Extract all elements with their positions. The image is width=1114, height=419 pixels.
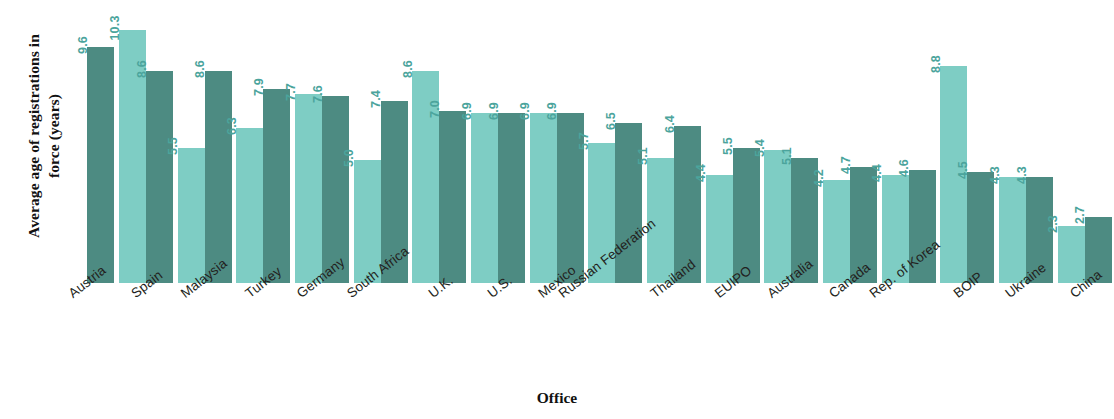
bar-value-label: 2.7	[1084, 206, 1098, 224]
bar-value-label: 9.6	[87, 36, 101, 54]
bar-light: 5.5	[178, 148, 205, 283]
bar-value-label: 5.0	[353, 149, 367, 167]
bar-light: 6.9	[530, 113, 557, 283]
bar-value-label: 8.6	[204, 60, 218, 78]
bar-value-label: 6.9	[471, 102, 485, 120]
bar-value-label: 4.4	[705, 164, 719, 182]
bar-light: 4.3	[999, 177, 1026, 283]
bar-dark: 7.9	[263, 89, 290, 283]
bar-groups: 9.610.38.65.58.66.37.97.77.65.07.48.67.0…	[58, 0, 1114, 283]
x-tick: Mexico	[527, 283, 586, 383]
bar-value-label: 4.3	[999, 166, 1013, 184]
bar-value-label: 6.9	[529, 102, 543, 120]
x-tick: Austria	[58, 283, 117, 383]
bar-value-label: 5.7	[588, 132, 602, 150]
bar-group: 2.32.7	[1055, 0, 1114, 283]
x-tick: U.S.	[469, 283, 528, 383]
bar-group: 5.16.4	[645, 0, 704, 283]
bar-dark: 5.5	[733, 148, 760, 283]
x-tick: Russian Federation	[586, 283, 645, 383]
x-tick: Germany	[293, 283, 352, 383]
bar-dark: 8.6	[146, 71, 173, 283]
bar-value-label: 6.4	[674, 115, 688, 133]
bar-dark: 6.9	[498, 113, 525, 283]
bar-group: 4.34.3	[997, 0, 1056, 283]
bar-value-label: 7.7	[295, 83, 309, 101]
bar-value-label: 4.3	[1026, 166, 1040, 184]
bar-value-label: 6.9	[556, 102, 570, 120]
bar-group: 7.77.6	[293, 0, 352, 283]
x-tick: Thailand	[645, 283, 704, 383]
bar-group: 6.37.9	[234, 0, 293, 283]
bar-dark: 8.6	[205, 71, 232, 283]
bar-value-label: 7.6	[322, 85, 336, 103]
x-tick: Ukraine	[997, 283, 1056, 383]
bar-group: 4.24.7	[821, 0, 880, 283]
bar-light: 7.7	[295, 94, 322, 283]
bar-dark: 4.5	[967, 172, 994, 283]
x-tick: Australia	[762, 283, 821, 383]
bar-value-label: 4.6	[908, 159, 922, 177]
bar-group: 5.45.1	[762, 0, 821, 283]
x-tick: South Africa	[351, 283, 410, 383]
x-tick: Malaysia	[175, 283, 234, 383]
bar-value-label: 7.0	[439, 100, 453, 118]
bar-group: 9.6	[58, 0, 117, 283]
bar-value-label: 10.3	[119, 15, 133, 40]
bar-value-label: 4.4	[881, 164, 895, 182]
bar-group: 5.58.6	[175, 0, 234, 283]
x-axis-tick-labels: AustriaSpainMalaysiaTurkeyGermanySouth A…	[58, 283, 1114, 383]
bar-group: 8.67.0	[410, 0, 469, 283]
x-tick: Canada	[821, 283, 880, 383]
bar-light: 2.3	[1058, 226, 1085, 283]
bar-value-label: 5.5	[732, 137, 746, 155]
bar-value-label: 4.2	[823, 169, 837, 187]
bar-light: 6.9	[471, 113, 498, 283]
bar-value-label: 6.3	[236, 117, 250, 135]
bar-value-label: 5.1	[791, 147, 805, 165]
x-tick: Rep. of Korea	[879, 283, 938, 383]
bar-value-label: 2.3	[1057, 215, 1071, 233]
bar-value-label: 7.9	[263, 78, 277, 96]
bar-light: 4.2	[823, 180, 850, 283]
x-tick: U.K.	[410, 283, 469, 383]
bar-group: 5.07.4	[351, 0, 410, 283]
bar-light: 6.3	[236, 128, 263, 283]
plot-area: 9.610.38.65.58.66.37.97.77.65.07.48.67.0…	[58, 0, 1114, 283]
x-tick: Spain	[117, 283, 176, 383]
bar-value-label: 6.5	[615, 112, 629, 130]
bar-value-label: 6.9	[498, 102, 512, 120]
bar-value-label: 5.1	[647, 147, 661, 165]
bar-chart: Average age of registrations in force (y…	[0, 0, 1114, 419]
bar-value-label: 8.6	[146, 60, 160, 78]
x-axis-title: Office	[0, 389, 1114, 407]
bar-value-label: 8.6	[412, 60, 426, 78]
x-tick: BOIP	[938, 283, 997, 383]
bar-value-label: 4.7	[850, 156, 864, 174]
x-tick: Turkey	[234, 283, 293, 383]
bar-value-label: 4.5	[967, 161, 981, 179]
bar-value-label: 5.4	[764, 139, 778, 157]
bar-value-label: 5.5	[177, 137, 191, 155]
bar-value-label: 7.4	[380, 90, 394, 108]
bar-light: 4.4	[706, 175, 733, 283]
bar-value-label: 8.8	[940, 55, 954, 73]
bar-group: 6.96.9	[469, 0, 528, 283]
bar-dark: 9.6	[87, 47, 114, 283]
bar-light: 5.4	[764, 150, 791, 283]
x-tick: China	[1055, 283, 1114, 383]
bar-group: 8.84.5	[938, 0, 997, 283]
bar-dark: 7.0	[439, 111, 466, 283]
x-tick: EUIPO	[703, 283, 762, 383]
